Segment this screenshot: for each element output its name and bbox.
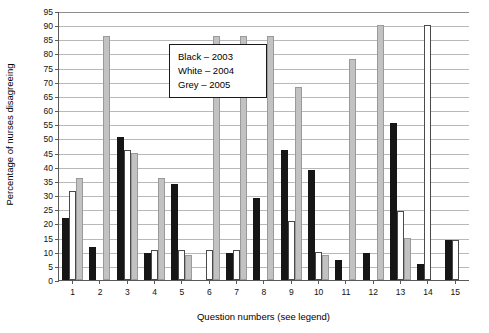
- bar-white: [69, 191, 76, 280]
- x-tick-mark: [99, 280, 100, 284]
- y-tick-label: 45: [27, 150, 53, 159]
- x-tick-mark: [209, 280, 210, 284]
- bar-white: [397, 211, 404, 280]
- x-tick-mark: [318, 280, 319, 284]
- bar-group: 12: [360, 12, 387, 280]
- x-tick-label: 5: [168, 287, 195, 297]
- bar-grey: [295, 87, 302, 280]
- y-tick-label: 95: [27, 8, 53, 17]
- bar-white: [424, 25, 431, 280]
- bar-black: [62, 218, 69, 280]
- bar-group: 4: [141, 12, 168, 280]
- bar-grey: [267, 36, 274, 280]
- x-tick-mark: [127, 280, 128, 284]
- x-tick-label: 12: [360, 287, 387, 297]
- bar-grey: [377, 25, 384, 280]
- x-tick-label: 1: [59, 287, 86, 297]
- y-tick-label: 5: [27, 263, 53, 272]
- y-tick-label: 55: [27, 121, 53, 130]
- bar-black: [390, 123, 397, 280]
- bar-black: [281, 150, 288, 280]
- bar-group: 9: [278, 12, 305, 280]
- x-tick-label: 3: [114, 287, 141, 297]
- y-tick-label: 40: [27, 164, 53, 173]
- y-tick-label: 25: [27, 206, 53, 215]
- bar-grey: [349, 59, 356, 280]
- x-tick-mark: [291, 280, 292, 284]
- y-tick-label: 10: [27, 249, 53, 258]
- x-tick-label: 4: [141, 287, 168, 297]
- x-tick-label: 2: [86, 287, 113, 297]
- plot-area: 05101520253035404550556065707580859095 1…: [58, 12, 469, 281]
- bar-group: 13: [387, 12, 414, 280]
- bar-black: [335, 260, 342, 280]
- bar-group: 3: [114, 12, 141, 280]
- bar-grey: [158, 178, 165, 280]
- x-tick-label: 13: [387, 287, 414, 297]
- x-tick-label: 7: [223, 287, 250, 297]
- x-tick-mark: [181, 280, 182, 284]
- x-tick-mark: [263, 280, 264, 284]
- x-tick-label: 9: [278, 287, 305, 297]
- bar-black: [253, 198, 260, 280]
- x-tick-mark: [236, 280, 237, 284]
- y-tick-label: 60: [27, 107, 53, 116]
- bar-grey: [131, 153, 138, 280]
- bar-black: [144, 253, 151, 280]
- bar-group: 11: [332, 12, 359, 280]
- bar-white: [151, 250, 158, 280]
- bar-black: [417, 264, 424, 280]
- y-tick-label: 75: [27, 65, 53, 74]
- y-tick-mark: [55, 281, 59, 282]
- x-axis-title: Question numbers (see legend): [58, 311, 469, 322]
- y-tick-label: 85: [27, 36, 53, 45]
- y-axis-title-text: Percentage of nurses disagreeing: [4, 63, 15, 205]
- y-tick-label: 30: [27, 192, 53, 201]
- bar-white: [233, 250, 240, 280]
- x-tick-mark: [455, 280, 456, 284]
- bar-grey: [185, 255, 192, 280]
- bar-black: [308, 170, 315, 280]
- bar-black: [117, 137, 124, 280]
- bar-black: [226, 253, 233, 280]
- bar-group: 15: [442, 12, 469, 280]
- x-tick-mark: [154, 280, 155, 284]
- legend-item-black: Black – 2003: [178, 50, 258, 64]
- bar-grey: [103, 36, 110, 280]
- x-tick-mark: [72, 280, 73, 284]
- bar-white: [452, 240, 459, 280]
- x-tick-label: 6: [196, 287, 223, 297]
- bar-white: [124, 150, 131, 280]
- x-tick-mark: [427, 280, 428, 284]
- bar-grey: [322, 255, 329, 280]
- legend-item-grey: Grey – 2005: [178, 78, 258, 92]
- y-axis-title: Percentage of nurses disagreeing: [2, 0, 16, 269]
- bar-black: [445, 240, 452, 280]
- bar-group: 14: [414, 12, 441, 280]
- x-tick-label: 10: [305, 287, 332, 297]
- x-tick-label: 15: [442, 287, 469, 297]
- y-tick-label: 65: [27, 93, 53, 102]
- bar-grey: [404, 238, 411, 280]
- y-tick-label: 70: [27, 79, 53, 88]
- x-tick-mark: [400, 280, 401, 284]
- bar-white: [178, 250, 185, 280]
- bar-group: 1: [59, 12, 86, 280]
- x-tick-label: 8: [250, 287, 277, 297]
- y-tick-label: 50: [27, 135, 53, 144]
- bar-black: [171, 184, 178, 280]
- y-tick-label: 0: [27, 277, 53, 286]
- x-tick-label: 14: [414, 287, 441, 297]
- bar-group: 10: [305, 12, 332, 280]
- y-tick-label: 35: [27, 178, 53, 187]
- x-tick-mark: [345, 280, 346, 284]
- chart-figure: Percentage of nurses disagreeing 0510152…: [0, 0, 489, 333]
- y-tick-label: 90: [27, 22, 53, 31]
- bar-white: [206, 250, 213, 280]
- x-tick-label: 11: [332, 287, 359, 297]
- bar-white: [288, 221, 295, 280]
- bar-grey: [76, 178, 83, 280]
- y-tick-label: 15: [27, 235, 53, 244]
- bar-black: [89, 247, 96, 280]
- y-tick-label: 20: [27, 220, 53, 229]
